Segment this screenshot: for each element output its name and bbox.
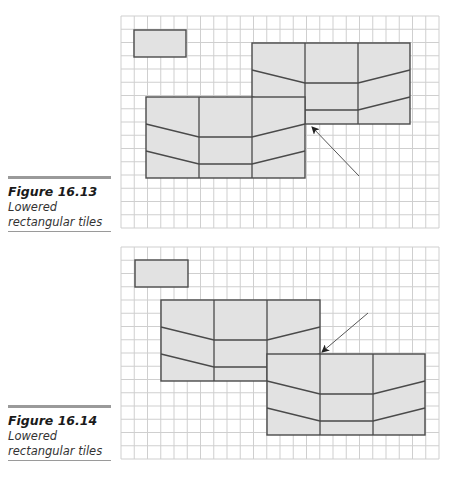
tile-block: [146, 97, 305, 178]
figure-16-14: [121, 247, 439, 459]
small-tile: [134, 30, 186, 57]
pointer-arrow-icon: [312, 127, 359, 176]
tile-block: [267, 354, 425, 435]
tile-diagrams: [0, 0, 458, 483]
small-tile: [135, 260, 188, 287]
figure-16-13: [121, 16, 439, 228]
pointer-arrow-icon: [322, 313, 368, 352]
